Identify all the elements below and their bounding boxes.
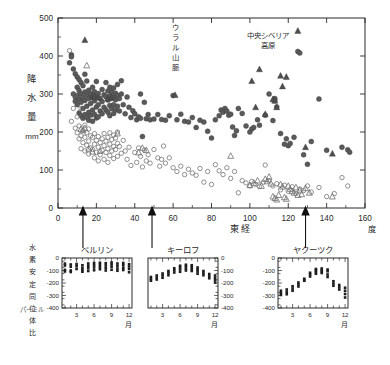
x-tick-label: 60: [169, 214, 179, 223]
panel-x-tick-label: 6: [92, 311, 96, 318]
marker-filled-triangle: [82, 37, 88, 43]
panel-data-point: [122, 269, 125, 272]
panel-data-point: [196, 270, 199, 273]
panel-data-point: [214, 274, 217, 277]
panel-data-point: [116, 267, 119, 270]
y-tick-label: 100: [39, 166, 53, 175]
panel-data-point: [297, 285, 300, 288]
isotope-panel: ヤクーツク0-100-200-300-40036912月: [263, 245, 349, 329]
ural-char: ウ: [172, 23, 179, 32]
panel-data-point: [128, 263, 131, 266]
marker-open-circle: [152, 147, 156, 151]
marker-filled-circle: [232, 133, 237, 138]
panel-data-point: [291, 285, 294, 288]
marker-filled-circle: [186, 120, 191, 125]
marker-open-circle: [69, 119, 73, 123]
marker-open-circle: [202, 180, 206, 184]
panel-x-tick-label: 12: [212, 311, 219, 318]
panel-data-point: [332, 280, 335, 283]
marker-open-circle: [146, 153, 150, 157]
panel-data-point: [69, 265, 72, 268]
panel-data-point: [81, 264, 84, 267]
panel-data-point: [326, 270, 329, 273]
marker-open-circle: [115, 154, 119, 158]
marker-open-circle: [171, 166, 175, 170]
marker-filled-circle: [309, 139, 314, 144]
bottom-ylabel-char: 同: [29, 293, 36, 301]
ylabel-char-0: 降: [27, 73, 37, 84]
panel-data-point: [93, 264, 96, 267]
marker-filled-triangle: [279, 83, 285, 89]
marker-open-triangle: [228, 153, 234, 159]
marker-filled-circle: [194, 125, 199, 130]
marker-open-circle: [175, 169, 179, 173]
marker-open-circle: [263, 163, 267, 167]
panel-data-point: [173, 269, 176, 272]
marker-filled-circle: [142, 100, 147, 105]
marker-open-circle: [71, 106, 75, 110]
annotation-central-siberia-line2: 高原: [261, 41, 275, 50]
marker-filled-circle: [284, 136, 289, 141]
panel-data-point: [167, 272, 170, 275]
panel-data-point: [150, 279, 153, 282]
panel-data-point: [202, 274, 205, 277]
panel-data-point: [202, 272, 205, 275]
marker-open-triangle: [329, 193, 335, 199]
marker-filled-triangle: [278, 72, 284, 78]
panel-data-point: [326, 276, 329, 279]
panel-frame: [62, 258, 132, 308]
panel-data-point: [291, 287, 294, 290]
x-tick-label: 0: [56, 214, 61, 223]
panel-data-point: [285, 293, 288, 296]
marker-filled-circle: [71, 66, 76, 71]
panel-y-tick-label: -400: [221, 304, 234, 311]
marker-filled-circle: [301, 152, 306, 157]
panel-y-tick-label: -200: [47, 279, 60, 286]
marker-filled-circle: [138, 116, 143, 121]
marker-filled-circle: [292, 135, 297, 140]
marker-open-circle: [157, 164, 161, 168]
marker-open-circle: [140, 165, 144, 169]
main-data-points: [67, 28, 352, 202]
panel-data-point: [122, 264, 125, 267]
panel-data-point: [161, 274, 164, 277]
panel-data-point: [87, 267, 90, 270]
y-tick-label: 400: [39, 52, 53, 61]
isotope-panel: キーロフ0-100-200-300-40036912月: [148, 245, 234, 329]
marker-open-triangle: [299, 191, 305, 197]
marker-filled-circle: [324, 148, 329, 153]
panel-data-point: [344, 289, 347, 292]
marker-open-circle: [324, 194, 328, 198]
marker-filled-circle: [103, 80, 108, 85]
marker-open-circle: [92, 156, 96, 160]
marker-filled-circle: [347, 150, 352, 155]
bottom-ylabel-char: 水: [29, 243, 36, 251]
marker-open-circle: [148, 161, 152, 165]
panel-data-point: [196, 272, 199, 275]
panel-data-point: [104, 269, 107, 272]
ural-char: 脈: [172, 63, 180, 72]
marker-filled-circle: [90, 85, 95, 90]
marker-filled-circle: [119, 78, 124, 83]
x-tick-label: 140: [320, 214, 334, 223]
marker-open-circle: [102, 157, 106, 161]
panel-x-tick-label: 9: [326, 311, 330, 318]
marker-open-circle: [232, 169, 236, 173]
panel-data-point: [75, 268, 78, 271]
marker-open-circle: [125, 157, 129, 161]
panel-data-point: [104, 264, 107, 267]
bottom-ylabel-char: 定: [29, 280, 36, 289]
marker-open-circle: [340, 175, 344, 179]
panel-data-point: [75, 263, 78, 266]
marker-open-circle: [194, 173, 198, 177]
panel-y-tick-label: 0: [272, 254, 276, 261]
panel-data-point: [214, 281, 217, 284]
marker-filled-triangle: [329, 150, 335, 156]
panel-data-point: [116, 262, 119, 265]
marker-open-circle: [278, 188, 282, 192]
marker-filled-circle: [69, 54, 74, 59]
marker-open-circle: [92, 131, 96, 135]
panel-x-tick-label: 12: [126, 311, 133, 318]
marker-filled-circle: [115, 104, 120, 109]
marker-open-circle: [121, 138, 125, 142]
